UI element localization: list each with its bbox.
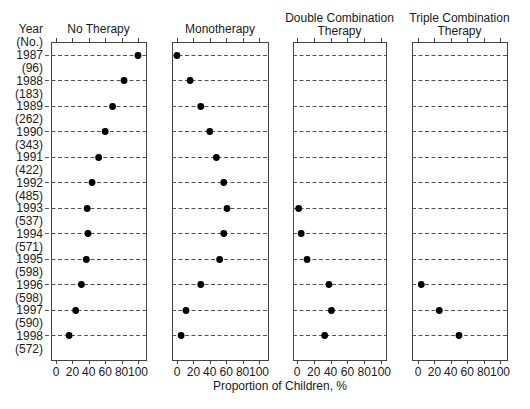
data-point <box>220 179 227 186</box>
panel-title: Monotherapy <box>185 22 255 36</box>
data-point <box>183 307 190 314</box>
x-tick-label: 100 <box>249 365 269 379</box>
data-point <box>326 281 333 288</box>
panel-frame <box>413 43 508 361</box>
x-tick-label: 0 <box>53 365 60 379</box>
data-point <box>197 103 204 110</box>
data-point <box>436 307 443 314</box>
data-point <box>89 179 96 186</box>
x-tick-label: 40 <box>203 365 217 379</box>
data-point <box>174 52 181 59</box>
x-tick-label: 20 <box>428 365 442 379</box>
panel-monotherapy: Monotherapy020406080100 <box>172 22 269 379</box>
x-tick-label: 80 <box>115 365 129 379</box>
data-point <box>109 103 116 110</box>
data-point <box>224 205 231 212</box>
panel-title: Therapy <box>317 24 361 38</box>
panel-no-therapy: No Therapy020406080100 <box>45 22 148 379</box>
data-point <box>95 154 102 161</box>
x-tick-label: 0 <box>415 365 422 379</box>
x-tick-label: 100 <box>490 365 510 379</box>
dot-plot-chart: Year (No.) 1987(96)1988(183)1989(262)199… <box>0 0 530 409</box>
x-tick-label: 60 <box>99 365 113 379</box>
x-tick-label: 60 <box>341 365 355 379</box>
data-point <box>78 281 85 288</box>
data-point <box>135 52 142 59</box>
data-point <box>102 128 109 135</box>
panel-triple-combination-therapy: Triple CombinationTherapy020406080100 <box>409 11 510 379</box>
x-tick-label: 0 <box>174 365 181 379</box>
x-tick-label: 40 <box>444 365 458 379</box>
data-point <box>456 332 463 339</box>
data-point <box>418 281 425 288</box>
x-tick-label: 100 <box>128 365 148 379</box>
y-axis-title-count: (No.) <box>16 35 43 49</box>
panel-title: Therapy <box>437 24 481 38</box>
data-point <box>187 77 194 84</box>
panel-title: Double Combination <box>285 11 394 25</box>
x-tick-label: 40 <box>324 365 338 379</box>
data-point <box>213 154 220 161</box>
x-tick-label: 20 <box>66 365 80 379</box>
data-point <box>197 281 204 288</box>
x-tick-label: 0 <box>294 365 301 379</box>
x-tick-label: 40 <box>82 365 96 379</box>
x-tick-label: 80 <box>477 365 491 379</box>
panel-double-combination-therapy: Double CombinationTherapy020406080100 <box>285 11 394 379</box>
data-point <box>295 205 302 212</box>
x-tick-label: 60 <box>461 365 475 379</box>
x-tick-label: 80 <box>236 365 250 379</box>
y-axis-labels: Year (No.) 1987(96)1988(183)1989(262)199… <box>15 22 43 356</box>
data-point <box>72 307 79 314</box>
data-point <box>328 307 335 314</box>
y-axis-title-year: Year <box>19 22 43 36</box>
panels: No Therapy020406080100Monotherapy0204060… <box>45 11 510 379</box>
data-point <box>220 230 227 237</box>
x-tick-label: 80 <box>358 365 372 379</box>
data-point <box>83 256 90 263</box>
data-point <box>321 332 328 339</box>
x-tick-label: 100 <box>371 365 391 379</box>
data-point <box>85 230 92 237</box>
data-point <box>121 77 128 84</box>
panel-title: Triple Combination <box>409 11 509 25</box>
data-point <box>304 256 311 263</box>
panel-frame <box>52 43 147 361</box>
data-point <box>206 128 213 135</box>
x-tick-label: 60 <box>220 365 234 379</box>
x-tick-label: 20 <box>307 365 321 379</box>
data-point <box>216 256 223 263</box>
data-point <box>178 332 185 339</box>
data-point <box>66 332 73 339</box>
panel-title: No Therapy <box>67 22 129 36</box>
panel-frame <box>294 43 387 361</box>
x-tick-label: 20 <box>187 365 201 379</box>
x-axis-label: Proportion of Children, % <box>213 379 347 393</box>
data-point <box>298 230 305 237</box>
count-label: (572) <box>15 342 43 356</box>
data-point <box>84 205 91 212</box>
